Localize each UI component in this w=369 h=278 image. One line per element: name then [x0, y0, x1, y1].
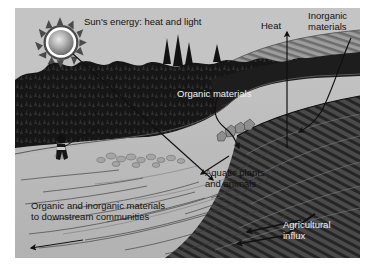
- label-inorganic-materials-line2: materials: [308, 22, 347, 33]
- label-agricultural-line1: Agricultural: [283, 220, 331, 231]
- label-heat: Heat: [261, 20, 281, 31]
- label-downstream-line2: to downstream communities: [31, 212, 149, 223]
- label-organic-materials: Organic materials: [177, 88, 251, 99]
- label-aquatic-line2: and animals: [205, 179, 256, 190]
- label-agricultural-line2: influx: [283, 231, 305, 242]
- label-inorganic-materials-line1: Inorganic: [308, 11, 347, 22]
- label-aquatic-line1: Aquatic plants: [205, 168, 265, 179]
- label-sun-energy: Sun's energy: heat and light: [84, 16, 201, 27]
- figure-container: Sun's energy: heat and light Heat Inorga…: [0, 0, 369, 278]
- scene-panel: Sun's energy: heat and light Heat Inorga…: [15, 8, 360, 258]
- label-downstream-line1: Organic and inorganic materials: [31, 201, 165, 212]
